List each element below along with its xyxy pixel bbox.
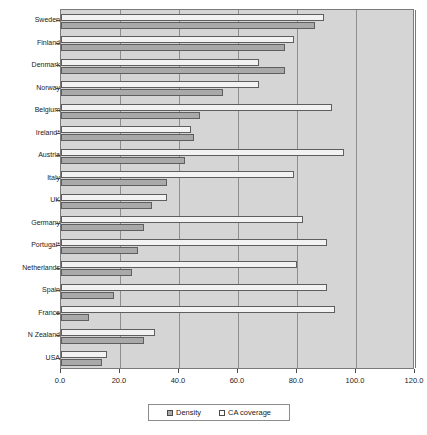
bar-density bbox=[61, 44, 285, 51]
value-tick-label: 80.0 bbox=[289, 376, 304, 385]
category-label: USA bbox=[4, 354, 60, 362]
legend-label: CA coverage bbox=[228, 408, 271, 417]
bar-group bbox=[61, 145, 413, 168]
value-tick-label: 60.0 bbox=[230, 376, 245, 385]
bar-group bbox=[61, 235, 413, 258]
category-label: Netherlands bbox=[4, 264, 60, 272]
bar-ca-coverage bbox=[61, 306, 335, 313]
bar-ca-coverage bbox=[61, 261, 297, 268]
bar-ca-coverage bbox=[61, 104, 332, 111]
category-label: Austria bbox=[4, 151, 60, 159]
category-label: Spain bbox=[4, 286, 60, 294]
value-tick-mark bbox=[355, 369, 356, 373]
gridline-120.0 bbox=[415, 10, 416, 368]
chart-legend: DensityCA coverage bbox=[148, 404, 290, 421]
category-label: Sweden bbox=[4, 16, 60, 24]
bar-ca-coverage bbox=[61, 351, 107, 358]
legend-swatch-icon bbox=[167, 410, 173, 416]
bar-group bbox=[61, 100, 413, 123]
value-tick-mark bbox=[296, 369, 297, 373]
bar-ca-coverage bbox=[61, 36, 294, 43]
bar-group bbox=[61, 348, 413, 371]
bar-group bbox=[61, 280, 413, 303]
bar-density bbox=[61, 112, 200, 119]
legend-item[interactable]: Density bbox=[167, 408, 201, 417]
bar-ca-coverage bbox=[61, 14, 324, 21]
value-tick-mark bbox=[237, 369, 238, 373]
category-label: France bbox=[4, 309, 60, 317]
bar-chart: SwedenFinlandDenmarkNorwayBelgiumIreland… bbox=[0, 0, 427, 435]
bar-density bbox=[61, 22, 315, 29]
bar-rows bbox=[61, 10, 413, 368]
bar-density bbox=[61, 292, 114, 299]
category-label: N Zealand bbox=[4, 331, 60, 339]
bar-group bbox=[61, 258, 413, 281]
category-label: Ireland* bbox=[4, 129, 60, 137]
legend-item[interactable]: CA coverage bbox=[219, 408, 271, 417]
bar-group bbox=[61, 168, 413, 191]
category-label: Belgium bbox=[4, 106, 60, 114]
category-label: Portugal* bbox=[4, 241, 60, 249]
bar-density bbox=[61, 359, 102, 366]
value-axis: 0.020.040.060.080.0100.0120.0 bbox=[60, 369, 414, 391]
bar-group bbox=[61, 55, 413, 78]
bar-ca-coverage bbox=[61, 329, 155, 336]
bar-group bbox=[61, 325, 413, 348]
bar-group bbox=[61, 303, 413, 326]
value-tick-mark bbox=[60, 369, 61, 373]
value-tick-mark bbox=[178, 369, 179, 373]
value-tick-label: 0.0 bbox=[55, 376, 65, 385]
bar-ca-coverage bbox=[61, 81, 259, 88]
bar-ca-coverage bbox=[61, 284, 327, 291]
value-tick-label: 20.0 bbox=[112, 376, 127, 385]
bar-ca-coverage bbox=[61, 239, 327, 246]
category-label: Norway bbox=[4, 84, 60, 92]
value-tick-mark bbox=[414, 369, 415, 373]
bar-density bbox=[61, 202, 152, 209]
bar-density bbox=[61, 157, 185, 164]
bar-density bbox=[61, 134, 194, 141]
bar-group bbox=[61, 33, 413, 56]
legend-label: Density bbox=[176, 408, 201, 417]
value-tick-label: 100.0 bbox=[346, 376, 365, 385]
bar-ca-coverage bbox=[61, 149, 344, 156]
value-tick-label: 40.0 bbox=[171, 376, 186, 385]
bar-density bbox=[61, 314, 89, 321]
plot-area bbox=[60, 9, 414, 369]
category-label: UK bbox=[4, 196, 60, 204]
legend-swatch-icon bbox=[219, 410, 225, 416]
bar-density bbox=[61, 67, 285, 74]
category-label: Finland bbox=[4, 39, 60, 47]
bar-group bbox=[61, 78, 413, 101]
category-label: Denmark bbox=[4, 61, 60, 69]
bar-ca-coverage bbox=[61, 194, 167, 201]
bar-density bbox=[61, 224, 144, 231]
bar-group bbox=[61, 213, 413, 236]
bar-ca-coverage bbox=[61, 171, 294, 178]
bar-density bbox=[61, 337, 144, 344]
bar-group bbox=[61, 190, 413, 213]
category-axis: SwedenFinlandDenmarkNorwayBelgiumIreland… bbox=[0, 9, 60, 369]
bar-density bbox=[61, 269, 132, 276]
value-tick-mark bbox=[119, 369, 120, 373]
bar-group bbox=[61, 10, 413, 33]
bar-density bbox=[61, 179, 167, 186]
bar-ca-coverage bbox=[61, 126, 191, 133]
category-label: Italy bbox=[4, 174, 60, 182]
bar-ca-coverage bbox=[61, 216, 303, 223]
category-label: Germany bbox=[4, 219, 60, 227]
bar-ca-coverage bbox=[61, 59, 259, 66]
bar-density bbox=[61, 247, 138, 254]
bar-density bbox=[61, 89, 223, 96]
bar-group bbox=[61, 123, 413, 146]
value-tick-label: 120.0 bbox=[405, 376, 424, 385]
